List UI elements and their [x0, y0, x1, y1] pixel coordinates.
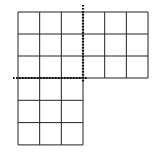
- dotted-cut-lines: [13, 5, 87, 82]
- bottom-grid: [18, 78, 83, 145]
- l-shaped-grid-diagram: [0, 0, 156, 155]
